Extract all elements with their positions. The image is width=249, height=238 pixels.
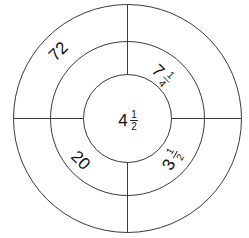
label-3-denominator: 2: [174, 152, 187, 163]
label-4-numerator: 1: [131, 109, 137, 120]
concentric-circle-diagram: 72 7 1 4 4 1 2 20 3 1 2: [0, 0, 249, 238]
label-20: 20: [67, 147, 94, 174]
label-72: 72: [45, 38, 72, 65]
label-outer-top-left: 72: [45, 38, 72, 65]
label-7-denominator: 4: [156, 78, 168, 90]
label-4-whole: 4: [118, 111, 127, 130]
label-center: 4 1 2: [118, 109, 138, 132]
label-middle-bottom-right: 3 1 2: [157, 145, 187, 174]
label-middle-top-right: 7 1 4: [147, 59, 178, 90]
label-middle-bottom-left: 20: [67, 147, 94, 174]
label-4-denominator: 2: [131, 121, 137, 132]
